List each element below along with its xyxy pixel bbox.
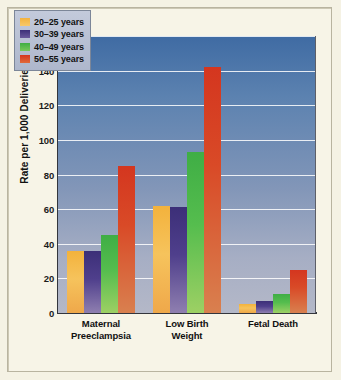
legend-item: 40–49 years: [20, 41, 84, 53]
y-tick-label: 80: [10, 169, 54, 180]
legend-swatch-icon: [20, 55, 30, 63]
bar: [187, 152, 204, 313]
legend-item: 20–25 years: [20, 16, 84, 28]
legend-item: 50–55 years: [20, 53, 84, 65]
y-axis-tick-labels: 020406080100120140160: [6, 36, 54, 313]
bar-groups: [58, 36, 315, 313]
chart-figure: Rate per 1,000 Deliveries 02040608010012…: [0, 0, 341, 380]
x-axis-tick-labels: MaternalPreeclampsiaLow BirthWeightFetal…: [58, 318, 316, 358]
bar: [239, 304, 256, 313]
bar: [101, 235, 118, 313]
legend-swatch-icon: [20, 30, 30, 38]
legend-swatch-icon: [20, 18, 30, 26]
bar: [84, 251, 101, 313]
legend-swatch-icon: [20, 43, 30, 51]
y-tick-label: 0: [10, 308, 54, 319]
legend: 20–25 years30–39 years40–49 years50–55 y…: [14, 10, 91, 71]
x-tick-label: MaternalPreeclampsia: [58, 318, 144, 342]
y-tick-label: 60: [10, 204, 54, 215]
bar: [153, 206, 170, 313]
legend-label: 20–25 years: [34, 17, 84, 27]
bar-group: [153, 36, 221, 313]
x-tick-label: Low BirthWeight: [144, 318, 230, 342]
bar: [290, 270, 307, 313]
y-tick-label: 120: [10, 100, 54, 111]
bar-group: [239, 36, 307, 313]
bar: [170, 207, 187, 313]
bar: [256, 301, 273, 313]
bar: [67, 251, 84, 313]
y-tick-label: 40: [10, 238, 54, 249]
bar: [118, 166, 135, 313]
y-tick-label: 20: [10, 273, 54, 284]
bar: [204, 67, 221, 313]
legend-label: 30–39 years: [34, 29, 84, 39]
legend-item: 30–39 years: [20, 28, 84, 40]
x-tick-label: Fetal Death: [230, 318, 316, 330]
legend-label: 40–49 years: [34, 42, 84, 52]
plot-area: [58, 36, 316, 313]
legend-label: 50–55 years: [34, 54, 84, 64]
bar-group: [67, 36, 135, 313]
y-tick-label: 100: [10, 134, 54, 145]
bar: [273, 294, 290, 313]
